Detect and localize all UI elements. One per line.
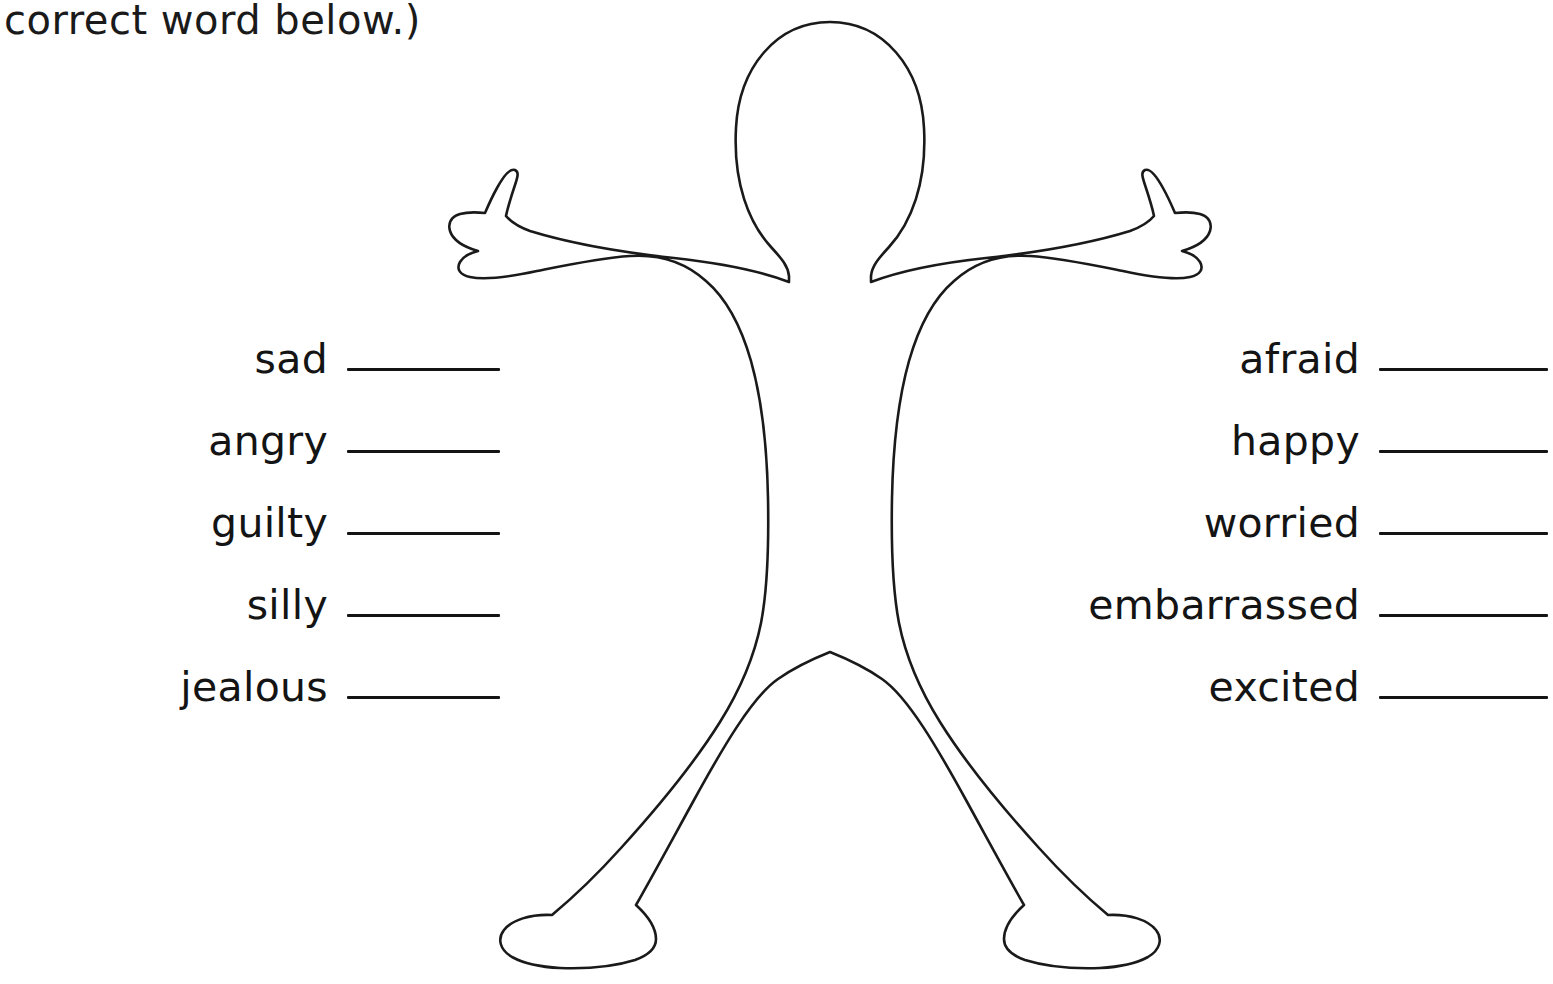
feeling-word-guilty: guilty (120, 503, 328, 544)
answer-blank-worried[interactable] (1379, 496, 1548, 537)
answer-blank-happy[interactable] (1379, 414, 1548, 455)
worksheet-page: correct word below.) sad angry guilty si… (0, 0, 1553, 984)
feeling-word-happy: happy (1040, 421, 1360, 462)
word-row: embarrassed (1040, 578, 1548, 660)
word-row: afraid (1040, 332, 1548, 414)
answer-blank-sad[interactable] (347, 332, 500, 373)
word-row: sad (120, 332, 500, 414)
word-row: worried (1040, 496, 1548, 578)
feeling-word-embarrassed: embarrassed (1040, 585, 1360, 626)
feeling-word-silly: silly (120, 585, 328, 626)
answer-blank-guilty[interactable] (347, 496, 500, 537)
feeling-word-excited: excited (1040, 667, 1360, 708)
feeling-word-sad: sad (120, 339, 328, 380)
feeling-word-afraid: afraid (1040, 339, 1360, 380)
feeling-word-jealous: jealous (120, 667, 328, 708)
feeling-word-angry: angry (120, 421, 328, 462)
answer-blank-excited[interactable] (1379, 660, 1548, 701)
word-row: silly (120, 578, 500, 660)
answer-blank-silly[interactable] (347, 578, 500, 619)
answer-blank-angry[interactable] (347, 414, 500, 455)
feeling-word-worried: worried (1040, 503, 1360, 544)
answer-blank-afraid[interactable] (1379, 332, 1548, 373)
answer-blank-embarrassed[interactable] (1379, 578, 1548, 619)
word-row: angry (120, 414, 500, 496)
word-row: happy (1040, 414, 1548, 496)
feelings-word-list-left: sad angry guilty silly jealous (120, 332, 500, 742)
feelings-word-list-right: afraid happy worried embarrassed excited (1040, 332, 1548, 742)
word-row: excited (1040, 660, 1548, 742)
word-row: jealous (120, 660, 500, 742)
answer-blank-jealous[interactable] (347, 660, 500, 701)
word-row: guilty (120, 496, 500, 578)
